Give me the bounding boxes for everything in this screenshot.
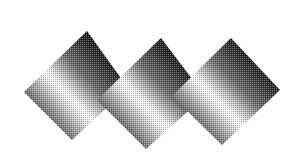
figure-canvas: Three overlapping gradient diamond tiles [0,0,304,161]
diamond-tiles-figure [0,0,304,161]
